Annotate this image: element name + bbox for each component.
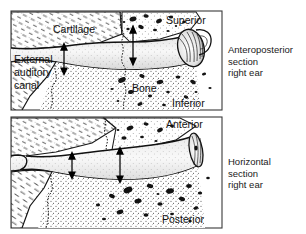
anatomical-figure: Cartilage External auditory canal Bone S… xyxy=(0,0,306,234)
label-canal-line2: auditory xyxy=(14,66,52,78)
caption-ap-line2: section xyxy=(228,56,293,68)
label-bone: Bone xyxy=(132,82,157,94)
caption-hz-line1: Horizontal xyxy=(228,156,271,168)
label-canal-line1: External xyxy=(14,53,53,65)
label-anterior: Anterior xyxy=(166,118,203,130)
label-inferior: Inferior xyxy=(172,97,205,109)
label-canal-line3: canal xyxy=(14,79,39,91)
label-cartilage: Cartilage xyxy=(53,23,95,35)
label-posterior: Posterior xyxy=(162,213,205,225)
label-superior: Superior xyxy=(166,14,206,26)
panel-horizontal: Anterior Posterior xyxy=(11,117,222,228)
drum-umbo xyxy=(194,145,197,150)
caption-ap-line3: right ear xyxy=(228,67,293,79)
caption-ap-line1: Anteroposterior xyxy=(228,44,293,56)
caption-hz-line3: right ear xyxy=(228,179,271,191)
figure-svg: Cartilage External auditory canal Bone S… xyxy=(0,0,306,234)
panel-anteroposterior: Cartilage External auditory canal Bone S… xyxy=(11,11,222,110)
caption-hz-line2: section xyxy=(228,168,271,180)
caption-horizontal: Horizontal section right ear xyxy=(228,156,271,191)
caption-anteroposterior: Anteroposterior section right ear xyxy=(228,44,293,79)
